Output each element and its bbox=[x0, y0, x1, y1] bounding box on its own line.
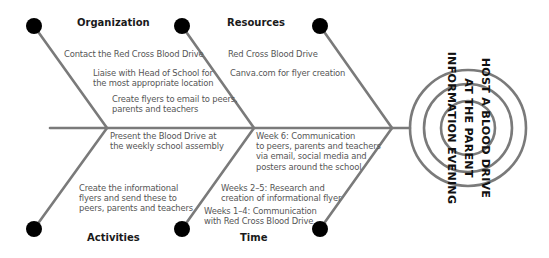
resources-item-1: Red Cross Blood Drive bbox=[228, 49, 318, 59]
goal-text: HOST A BLOOD DRIVE AT THE PARENT INFORMA… bbox=[443, 52, 494, 205]
organization-item-2-line-2: the most appropriate location bbox=[93, 78, 213, 88]
time-item-3: Weeks 1–4: Communication with Red Cross … bbox=[204, 206, 317, 226]
dot-bottom-2 bbox=[174, 221, 190, 237]
time-item-1-line-2: to peers, parents and teachers bbox=[256, 141, 381, 151]
heading-time: Time bbox=[240, 232, 267, 243]
heading-organization: Organization bbox=[77, 17, 150, 28]
activities-item-1: Present the Blood Drive at the weekly sc… bbox=[110, 131, 224, 151]
organization-item-3: Create flyers to email to peers, parents… bbox=[112, 94, 238, 114]
activities-item-1-line-1: Present the Blood Drive at bbox=[110, 131, 224, 141]
activities-item-1-line-2: the weekly school assembly bbox=[110, 141, 224, 151]
time-item-1-line-1: Week 6: Communication bbox=[256, 131, 381, 141]
organization-item-2: Liaise with Head of School for the most … bbox=[93, 68, 213, 88]
time-item-3-line-1: Weeks 1–4: Communication bbox=[204, 206, 317, 216]
organization-item-3-line-1: Create flyers to email to peers, bbox=[112, 94, 238, 104]
goal-line-3: INFORMATION EVENING bbox=[443, 52, 460, 205]
dot-top-2 bbox=[174, 18, 190, 34]
time-item-2: Weeks 2–5: Research and creation of info… bbox=[221, 183, 341, 203]
activities-item-2-line-3: peers, parents and teachers bbox=[79, 203, 193, 213]
organization-item-2-line-1: Liaise with Head of School for bbox=[93, 68, 213, 78]
goal-line-2: AT THE PARENT bbox=[460, 52, 477, 205]
organization-item-1: Contact the Red Cross Blood Drive bbox=[64, 49, 204, 59]
time-item-1-line-3: via email, social media and bbox=[256, 151, 381, 161]
organization-item-3-line-2: parents and teachers bbox=[112, 104, 238, 114]
bone-bottom-1 bbox=[34, 128, 107, 229]
dot-top-3 bbox=[312, 18, 328, 34]
time-item-2-line-1: Weeks 2–5: Research and bbox=[221, 183, 341, 193]
activities-item-2: Create the informational flyers and send… bbox=[79, 183, 193, 214]
time-item-2-line-2: creation of informational flyer bbox=[221, 193, 341, 203]
resources-item-2: Canva.com for flyer creation bbox=[230, 68, 345, 78]
goal-line-1: HOST A BLOOD DRIVE bbox=[477, 52, 494, 205]
time-item-1: Week 6: Communication to peers, parents … bbox=[256, 131, 381, 172]
heading-activities: Activities bbox=[87, 232, 140, 243]
time-item-1-line-4: posters around the school bbox=[256, 162, 381, 172]
activities-item-2-line-1: Create the informational bbox=[79, 183, 193, 193]
dot-bottom-1 bbox=[26, 221, 42, 237]
time-item-3-line-2: with Red Cross Blood Drive bbox=[204, 216, 317, 226]
activities-item-2-line-2: flyers and send these to bbox=[79, 193, 193, 203]
heading-resources: Resources bbox=[227, 17, 285, 28]
dot-top-1 bbox=[26, 18, 42, 34]
